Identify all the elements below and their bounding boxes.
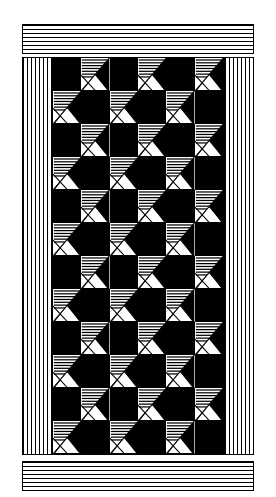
solid-black-block: [166, 256, 194, 289]
solid-black-block: [81, 421, 109, 454]
hatched-pinwheel-block: [81, 388, 109, 421]
hatched-pinwheel-block: [138, 58, 166, 91]
hatched-pinwheel-block: [166, 91, 194, 124]
hatched-pinwheel-block: [166, 421, 194, 454]
solid-black-block: [166, 124, 194, 157]
hatched-pinwheel-block: [53, 91, 81, 124]
solid-black-block: [53, 124, 81, 157]
solid-black-block: [81, 91, 109, 124]
solid-black-block: [110, 58, 138, 91]
solid-black-block: [110, 256, 138, 289]
solid-black-block: [166, 388, 194, 421]
solid-black-block: [110, 190, 138, 223]
solid-black-block: [166, 322, 194, 355]
solid-black-block: [110, 322, 138, 355]
hatched-pinwheel-block: [110, 91, 138, 124]
hatched-pinwheel-block: [195, 256, 223, 289]
hatched-pinwheel-block: [195, 58, 223, 91]
hatched-pinwheel-block: [138, 322, 166, 355]
solid-black-block: [81, 157, 109, 190]
hatched-pinwheel-block: [53, 421, 81, 454]
solid-black-block: [110, 388, 138, 421]
solid-black-block: [53, 388, 81, 421]
hatched-pinwheel-block: [81, 58, 109, 91]
solid-black-block: [81, 223, 109, 256]
hatched-pinwheel-block: [81, 190, 109, 223]
hatched-pinwheel-block: [138, 256, 166, 289]
solid-black-block: [110, 124, 138, 157]
solid-black-block: [81, 355, 109, 388]
quilt-field: [52, 57, 224, 455]
hatched-pinwheel-block: [81, 124, 109, 157]
hatched-pinwheel-block: [195, 124, 223, 157]
hatched-pinwheel-block: [138, 388, 166, 421]
solid-black-block: [195, 289, 223, 322]
solid-black-block: [138, 355, 166, 388]
hatched-pinwheel-block: [195, 190, 223, 223]
right-striped-border: [224, 57, 254, 455]
solid-black-block: [138, 289, 166, 322]
solid-black-block: [195, 355, 223, 388]
left-striped-border: [22, 57, 52, 455]
solid-black-block: [195, 157, 223, 190]
solid-black-block: [195, 223, 223, 256]
hatched-pinwheel-block: [138, 190, 166, 223]
hatched-pinwheel-block: [53, 355, 81, 388]
hatched-pinwheel-block: [195, 322, 223, 355]
hatched-pinwheel-block: [110, 355, 138, 388]
hatched-pinwheel-block: [53, 289, 81, 322]
solid-black-block: [138, 91, 166, 124]
hatched-pinwheel-block: [166, 289, 194, 322]
hatched-pinwheel-block: [53, 223, 81, 256]
hatched-pinwheel-block: [195, 388, 223, 421]
solid-black-block: [138, 157, 166, 190]
solid-black-block: [166, 58, 194, 91]
top-striped-border: [22, 24, 254, 54]
solid-black-block: [53, 256, 81, 289]
hatched-pinwheel-block: [81, 256, 109, 289]
hatched-pinwheel-block: [166, 355, 194, 388]
solid-black-block: [195, 91, 223, 124]
hatched-pinwheel-block: [138, 124, 166, 157]
solid-black-block: [138, 421, 166, 454]
solid-black-block: [166, 190, 194, 223]
hatched-pinwheel-block: [166, 157, 194, 190]
hatched-pinwheel-block: [110, 223, 138, 256]
hatched-pinwheel-block: [53, 157, 81, 190]
solid-black-block: [53, 190, 81, 223]
solid-black-block: [53, 322, 81, 355]
hatched-pinwheel-block: [110, 289, 138, 322]
solid-black-block: [138, 223, 166, 256]
hatched-pinwheel-block: [166, 223, 194, 256]
quilt-artwork: [0, 0, 276, 497]
bottom-striped-border: [22, 461, 254, 491]
solid-black-block: [53, 58, 81, 91]
hatched-pinwheel-block: [110, 421, 138, 454]
solid-black-block: [81, 289, 109, 322]
hatched-pinwheel-block: [81, 322, 109, 355]
hatched-pinwheel-block: [110, 157, 138, 190]
solid-black-block: [195, 421, 223, 454]
